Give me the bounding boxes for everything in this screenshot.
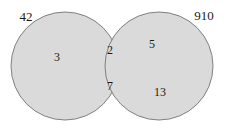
region-value-intersection-lower: 7 bbox=[107, 80, 113, 92]
set-label-right: 910 bbox=[194, 9, 214, 22]
left-circle bbox=[11, 12, 119, 120]
region-value-intersection-upper: 2 bbox=[107, 44, 113, 56]
region-value-left-only: 3 bbox=[54, 51, 60, 63]
set-label-left: 42 bbox=[20, 10, 33, 23]
venn-canvas bbox=[0, 0, 226, 131]
right-circle bbox=[105, 12, 213, 120]
region-value-right-only-upper: 5 bbox=[149, 38, 155, 50]
venn-diagram-figure: 42 910 3 2 7 5 13 bbox=[0, 0, 226, 131]
region-value-right-only-lower: 13 bbox=[154, 86, 166, 98]
